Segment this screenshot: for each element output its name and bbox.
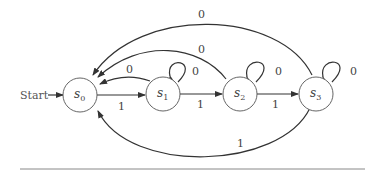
- loop-s3-label: 0: [350, 65, 357, 78]
- edge-s1-s2-label: 1: [197, 98, 204, 111]
- edge-s0-s1-label: 1: [118, 100, 125, 113]
- edge-s3-s0-top-label: 0: [198, 8, 205, 21]
- loop-s1-label: 0: [192, 65, 199, 78]
- edge-s3-s0-bottom: [98, 108, 310, 157]
- loop-s3: [323, 62, 340, 82]
- state-diagram: Start 1 1 1 0 0 0 1 0 0 0 s0 s1 s2 s3: [0, 0, 365, 176]
- edge-s3-s0-bottom-label: 1: [237, 137, 244, 150]
- edge-s1-s0-label: 0: [126, 63, 133, 76]
- state-s1: s1: [146, 77, 180, 111]
- state-s0: s0: [63, 78, 97, 112]
- edge-s2-s0-label: 0: [198, 43, 205, 56]
- edge-s2-s0: [98, 51, 226, 79]
- edge-s2-s3-label: 1: [272, 98, 279, 111]
- start-label: Start: [20, 89, 49, 102]
- state-s2: s2: [223, 77, 257, 111]
- state-s3: s3: [299, 77, 333, 111]
- loop-s2: [247, 62, 264, 82]
- edge-s1-s0: [100, 77, 150, 84]
- loop-s2-label: 0: [275, 65, 282, 78]
